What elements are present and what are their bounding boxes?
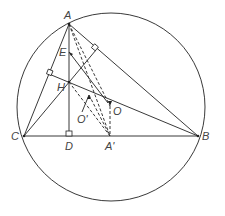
point-h	[68, 81, 71, 84]
point-b	[197, 135, 200, 138]
arrowhead-o	[108, 101, 112, 106]
label-a: A	[63, 9, 71, 21]
label-o: O	[113, 105, 122, 117]
segment-ao	[69, 24, 110, 106]
right-angle-ac	[46, 69, 53, 76]
label-d: D	[65, 140, 73, 152]
segment-ha1	[69, 82, 110, 136]
side-ab	[69, 24, 198, 136]
label-o-prime: O'	[77, 113, 89, 125]
label-a-prime: A'	[104, 140, 115, 152]
label-e: E	[59, 46, 67, 58]
right-angle-d	[66, 131, 72, 136]
segment-aa1	[69, 24, 110, 136]
circumcircle	[17, 13, 205, 201]
point-c	[23, 135, 26, 138]
label-h: H	[57, 81, 65, 93]
altitude-from-b	[49, 74, 198, 136]
geometry-diagram: A B C D A' O O' H E	[0, 0, 225, 216]
label-b: B	[202, 130, 209, 142]
arrowhead-e	[69, 52, 73, 56]
point-a	[68, 23, 71, 26]
label-c: C	[11, 130, 19, 142]
